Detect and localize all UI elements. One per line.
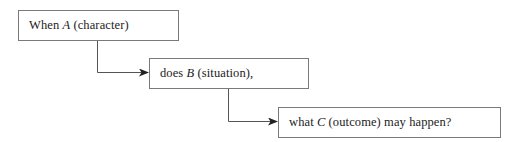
step-suffix: (situation), bbox=[194, 66, 253, 81]
step-box-outcome: what C (outcome) may happen? bbox=[278, 107, 501, 138]
question-flow-diagram: When A (character) does B (situation), w… bbox=[0, 0, 512, 142]
connector-a-to-b bbox=[98, 41, 149, 73]
step-suffix: (outcome) may happen? bbox=[325, 115, 451, 130]
variable-b: B bbox=[187, 66, 195, 81]
step-suffix: (character) bbox=[70, 18, 128, 33]
variable-c: C bbox=[317, 115, 325, 130]
connector-b-to-c bbox=[229, 89, 278, 122]
step-box-situation: does B (situation), bbox=[149, 58, 309, 89]
step-prefix: what bbox=[289, 115, 317, 130]
step-box-character: When A (character) bbox=[18, 10, 179, 41]
step-prefix: When bbox=[29, 18, 62, 33]
step-prefix: does bbox=[160, 66, 187, 81]
variable-a: A bbox=[62, 18, 70, 33]
